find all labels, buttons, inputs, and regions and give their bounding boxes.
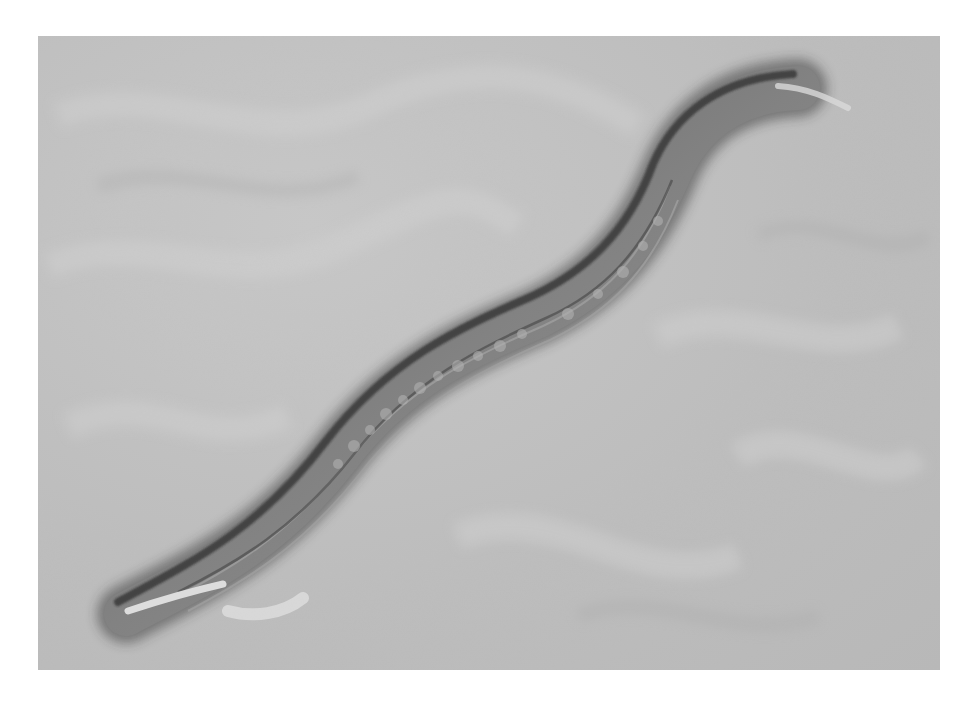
micrograph (38, 36, 940, 670)
nematode-illustration (38, 36, 940, 670)
